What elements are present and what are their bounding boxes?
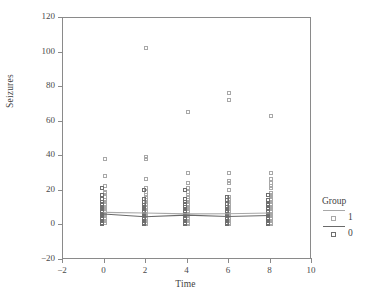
scatter-point bbox=[142, 188, 146, 192]
scatter-point bbox=[142, 222, 146, 226]
legend-entry-1[interactable]: 1 bbox=[322, 209, 368, 225]
scatter-point bbox=[266, 193, 270, 197]
x-tick-mark bbox=[187, 259, 188, 263]
y-tick-label: 20 bbox=[46, 185, 55, 194]
scatter-point bbox=[227, 91, 231, 95]
scatter-point bbox=[186, 110, 190, 114]
scatter-point bbox=[183, 222, 187, 226]
scatter-point bbox=[103, 157, 107, 161]
x-tick-label: 4 bbox=[175, 266, 199, 275]
y-tick-mark bbox=[58, 155, 62, 156]
scatter-point bbox=[144, 177, 148, 181]
scatter-point bbox=[100, 222, 104, 226]
scatter-point bbox=[227, 171, 231, 175]
x-tick-mark bbox=[145, 259, 146, 263]
y-axis-title: Seizures bbox=[5, 74, 15, 108]
y-tick-mark bbox=[58, 190, 62, 191]
legend: Group 10 bbox=[322, 196, 368, 241]
y-tick-label: 60 bbox=[46, 116, 55, 125]
y-tick-label: 120 bbox=[42, 12, 56, 21]
legend-label: 0 bbox=[348, 229, 353, 239]
x-tick-label: 6 bbox=[216, 266, 240, 275]
x-tick-label: 8 bbox=[258, 266, 282, 275]
scatter-point bbox=[225, 222, 229, 226]
y-tick-label: 100 bbox=[42, 47, 56, 56]
y-tick-label: −20 bbox=[41, 254, 55, 263]
right-axis-line bbox=[310, 17, 311, 259]
legend-entries: 10 bbox=[322, 209, 368, 241]
scatter-point bbox=[269, 171, 273, 175]
y-tick-label: 80 bbox=[46, 81, 55, 90]
legend-square-marker-icon bbox=[331, 232, 336, 237]
x-tick-mark bbox=[62, 259, 63, 263]
x-axis-title: Time bbox=[0, 279, 371, 289]
legend-entry-0[interactable]: 0 bbox=[322, 225, 368, 241]
x-tick-mark bbox=[270, 259, 271, 263]
x-tick-mark bbox=[104, 259, 105, 263]
legend-title: Group bbox=[322, 196, 368, 206]
scatter-point bbox=[183, 188, 187, 192]
scatter-point bbox=[227, 188, 231, 192]
legend-label: 1 bbox=[348, 213, 353, 223]
scatter-point bbox=[144, 157, 148, 161]
scatter-point bbox=[269, 114, 273, 118]
scatter-point bbox=[186, 171, 190, 175]
scatter-point bbox=[227, 181, 231, 185]
x-tick-mark bbox=[228, 259, 229, 263]
x-tick-label: 10 bbox=[299, 266, 323, 275]
x-tick-label: −2 bbox=[50, 266, 74, 275]
x-tick-mark bbox=[311, 259, 312, 263]
scatter-point bbox=[269, 186, 273, 190]
seizures-vs-time-scatter-figure: −20020406080100120 −20246810 Seizures Ti… bbox=[0, 0, 371, 298]
legend-line-swatch bbox=[323, 210, 345, 211]
legend-square-marker-icon bbox=[331, 216, 336, 221]
y-tick-mark bbox=[58, 52, 62, 53]
scatter-point bbox=[100, 186, 104, 190]
legend-line-swatch bbox=[323, 226, 345, 227]
y-tick-mark bbox=[58, 121, 62, 122]
scatter-point bbox=[186, 181, 190, 185]
y-tick-mark bbox=[58, 224, 62, 225]
scatter-point bbox=[103, 174, 107, 178]
y-tick-label: 0 bbox=[51, 219, 56, 228]
y-tick-label: 40 bbox=[46, 150, 55, 159]
scatter-point bbox=[266, 222, 270, 226]
y-tick-mark bbox=[58, 86, 62, 87]
scatter-point bbox=[144, 46, 148, 50]
scatter-point bbox=[227, 98, 231, 102]
x-tick-label: 0 bbox=[92, 266, 116, 275]
x-tick-label: 2 bbox=[133, 266, 157, 275]
y-tick-mark bbox=[58, 17, 62, 18]
